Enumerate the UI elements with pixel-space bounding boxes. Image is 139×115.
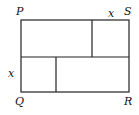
vertex-label-q: Q [15,96,24,107]
side-label-x-top: x [108,8,114,19]
vertex-label-r: R [124,96,132,107]
outer-rectangle [21,20,129,92]
vertex-label-p: P [16,6,23,17]
side-label-x-left: x [8,68,14,79]
vertex-label-s: S [124,6,132,17]
